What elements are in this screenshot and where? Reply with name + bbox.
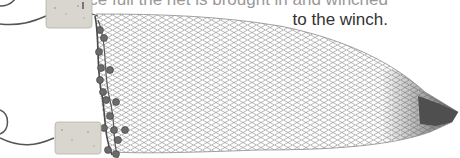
trawl-net-illustration: [0, 0, 460, 158]
net-body: [90, 10, 460, 158]
cork-float-bottom: [0, 110, 101, 154]
cork-float-top: [0, 0, 98, 28]
